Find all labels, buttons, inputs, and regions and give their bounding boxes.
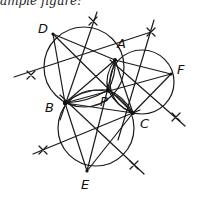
- label-C: C: [140, 116, 150, 131]
- segment-CF: [133, 74, 171, 113]
- line-AE: [87, 60, 115, 171]
- geometric-construction-diagram: D A F B P C E: [0, 0, 199, 200]
- point-A: [113, 58, 117, 62]
- bisector-BC: [33, 110, 140, 154]
- point-F: [169, 72, 172, 75]
- label-E: E: [81, 177, 90, 192]
- point-C: [131, 111, 135, 115]
- label-P: P: [100, 94, 108, 109]
- point-E: [85, 169, 88, 172]
- label-A: A: [116, 36, 126, 51]
- point-P: [106, 88, 110, 92]
- label-F: F: [177, 62, 185, 77]
- point-B: [63, 101, 67, 105]
- circle-abd: [44, 27, 124, 107]
- point-D: [51, 32, 54, 35]
- label-B: B: [45, 100, 54, 115]
- label-D: D: [38, 21, 48, 36]
